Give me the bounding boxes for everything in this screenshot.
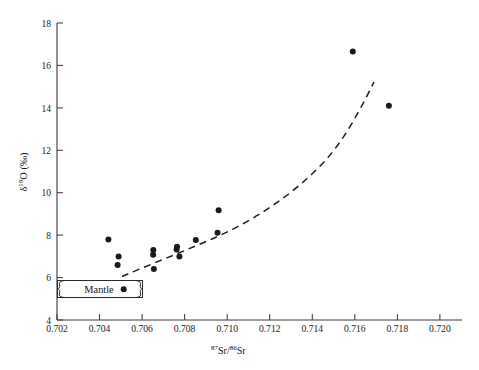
data-point	[105, 236, 111, 242]
data-point	[115, 262, 121, 268]
data-point	[151, 266, 157, 272]
x-tick-label: 0.704	[89, 323, 111, 334]
data-point	[116, 253, 122, 259]
mantle-left-brace	[57, 281, 63, 298]
y-tick-label: 18	[41, 18, 51, 29]
x-tick-label: 0.712	[259, 323, 281, 334]
mantle-label: Mantle	[84, 284, 114, 295]
y-tick-label: 8	[46, 230, 51, 241]
y-tick-label: 6	[46, 272, 51, 283]
x-tick-label: 0.714	[302, 323, 324, 334]
data-point	[176, 253, 182, 259]
y-tick-group: 18 16 14 12 10 8 6 4	[41, 18, 63, 326]
x-axis-title-base-sr2: Sr	[237, 345, 247, 356]
y-axis-title-unit: (‰)	[18, 152, 30, 169]
x-tick-label: 0.706	[131, 323, 153, 334]
x-tick-label: 0.718	[387, 323, 409, 334]
figure-root: 18 16 14 12 10 8 6 4 0.702 0.704 0.706	[0, 0, 479, 370]
scatter-plot-canvas: 18 16 14 12 10 8 6 4 0.702 0.704 0.706	[0, 0, 479, 370]
y-axis-title-element-o: O	[18, 172, 29, 179]
data-point	[350, 49, 356, 55]
data-point-group	[105, 49, 392, 293]
x-tick-label: 0.710	[216, 323, 238, 334]
trend-curve-dashed	[122, 82, 374, 277]
mantle-right-brace	[137, 281, 143, 298]
y-tick-label: 10	[41, 187, 51, 198]
data-point	[193, 237, 199, 243]
data-point	[150, 252, 156, 258]
y-axis-title: δ18O(‰)	[17, 152, 30, 191]
x-tick-group: 0.702 0.704 0.706 0.708 0.710 0.712 0.71…	[46, 314, 451, 334]
x-axis-title: 87Sr/86Sr	[211, 344, 246, 356]
y-axis-title-text: δ18O(‰)	[17, 152, 30, 191]
x-tick-label: 0.708	[174, 323, 196, 334]
data-point	[386, 103, 392, 109]
y-tick-label: 16	[41, 60, 51, 71]
data-point	[216, 207, 222, 213]
x-tick-label: 0.720	[429, 323, 451, 334]
x-axis-title-text: 87Sr/86Sr	[211, 344, 246, 356]
x-axis-title-base-sr1: Sr/	[218, 345, 230, 356]
data-point	[174, 247, 180, 253]
y-tick-label: 14	[41, 103, 51, 114]
data-point	[215, 230, 221, 236]
y-tick-label: 12	[41, 145, 51, 156]
x-tick-label: 0.702	[46, 323, 68, 334]
x-tick-label: 0.716	[344, 323, 366, 334]
mantle-field-annotation: Mantle	[57, 281, 142, 298]
data-point	[121, 286, 127, 292]
